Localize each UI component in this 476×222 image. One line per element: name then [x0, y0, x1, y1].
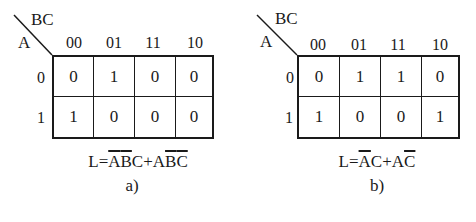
kmap-cell: 1	[299, 97, 340, 137]
formula-part: C+A	[132, 152, 165, 171]
row-header: 0	[35, 70, 47, 86]
formula-part-negated: B	[121, 152, 132, 171]
row-header: 1	[35, 110, 47, 126]
kmap-grid: 0 1 1 0 1 0 0 1	[297, 55, 460, 139]
formula-part-negated: C	[404, 152, 415, 171]
karnaugh-map-b: BC A 00 01 11 10 0 1 0 1 1 0 1 0 0 1 L=A…	[243, 0, 476, 222]
kmap-cell: 0	[54, 57, 94, 97]
column-header: 00	[59, 35, 89, 51]
formula-part: C+A	[371, 152, 404, 171]
figure-caption: b)	[362, 177, 392, 194]
row-header: 0	[284, 70, 296, 86]
kmap-cell: 0	[94, 97, 135, 137]
formula-part: L=	[88, 152, 108, 171]
kmap-cell: 0	[135, 57, 176, 97]
kmap-cell: 1	[340, 57, 381, 97]
kmap-cell: 1	[422, 97, 458, 137]
kmap-cell: 1	[94, 57, 135, 97]
corner-diagonal-line	[0, 0, 60, 60]
column-header: 10	[425, 37, 455, 53]
formula-part-negated: C	[176, 152, 187, 171]
kmap-cell: 1	[54, 97, 94, 137]
column-header: 00	[303, 37, 333, 53]
kmap-grid: 0 1 0 0 1 0 0 0	[52, 55, 214, 139]
formula-part-negated: B	[165, 152, 176, 171]
column-header: 11	[383, 37, 413, 53]
formula-part: L=	[339, 152, 359, 171]
kmap-cell: 0	[135, 97, 176, 137]
figure-caption: a)	[117, 177, 147, 194]
kmap-cell: 1	[381, 57, 422, 97]
kmap-cell: 0	[422, 57, 458, 97]
row-header: 1	[283, 110, 295, 126]
variable-label-bc: BC	[31, 11, 54, 28]
formula-part-negated: A	[108, 152, 120, 171]
kmap-cell: 0	[381, 97, 422, 137]
variable-label-a: A	[260, 33, 272, 50]
kmap-cell: 0	[299, 57, 340, 97]
column-header: 01	[344, 37, 374, 53]
formula-part-negated: A	[359, 152, 371, 171]
kmap-cell: 0	[340, 97, 381, 137]
column-header: 10	[180, 35, 210, 51]
variable-label-bc: BC	[275, 10, 298, 27]
boolean-expression: L=ABC+ABC	[78, 152, 198, 172]
karnaugh-map-a: BC A 00 01 11 10 0 1 0 1 0 0 1 0 0 0 L=A…	[0, 0, 238, 222]
variable-label-a: A	[18, 34, 30, 51]
boolean-expression: L=AC+AC	[327, 152, 427, 172]
column-header: 01	[99, 35, 129, 51]
column-header: 11	[138, 35, 168, 51]
kmap-cell: 0	[176, 97, 212, 137]
kmap-cell: 0	[176, 57, 212, 97]
